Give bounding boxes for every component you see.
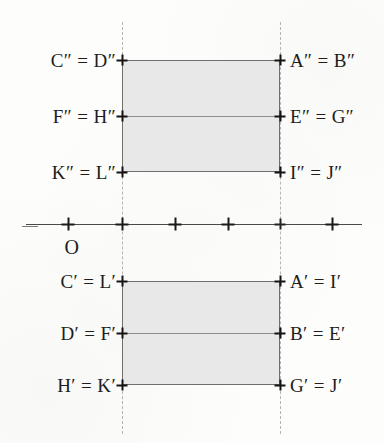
- upper-rectangle: [122, 60, 280, 172]
- upper-rect-bottom-edge: [122, 171, 280, 172]
- lower-rect-bottom-edge: [122, 384, 280, 385]
- vertex-upper-top-right: [275, 55, 286, 66]
- lower-rect-top-edge: [122, 281, 280, 282]
- label-lower-right-top: A′ = I′: [290, 272, 341, 291]
- vertex-lower-top-left: [117, 276, 128, 287]
- ground-axis-line: [26, 224, 362, 225]
- label-lower-left-middle: D′ = F′: [60, 324, 116, 343]
- vertex-lower-bottom-right: [275, 380, 286, 391]
- lower-rectangle: [122, 281, 280, 385]
- projection-figure: C″ = D″ F″ = H″ K″ = L″ A″ = B″ E″ = G″ …: [0, 0, 384, 443]
- vertex-lower-mid-left: [117, 328, 128, 339]
- vertex-upper-top-left: [117, 55, 128, 66]
- upper-rect-top-edge: [122, 60, 280, 61]
- label-upper-left-bottom: K″ = L″: [52, 163, 116, 182]
- axis-tick-2: [116, 218, 129, 231]
- label-lower-left-bottom: H′ = K′: [57, 376, 116, 395]
- lower-rect-midline: [122, 333, 280, 334]
- label-lower-right-bottom: G′ = J′: [290, 376, 342, 395]
- label-lower-right-middle: B′ = E′: [290, 324, 346, 343]
- label-upper-left-middle: F″ = H″: [53, 107, 116, 126]
- origin-label: O: [65, 237, 80, 257]
- axis-tick-5: [275, 219, 286, 230]
- axis-tick-6: [326, 218, 339, 231]
- axis-tick-1: [62, 218, 75, 231]
- vertex-lower-mid-right: [275, 328, 286, 339]
- upper-rect-midline: [122, 116, 280, 117]
- vertex-lower-bottom-left: [117, 380, 128, 391]
- vertex-upper-bottom-left: [117, 167, 128, 178]
- axis-tick-4: [222, 218, 235, 231]
- label-upper-right-bottom: I″ = J″: [290, 163, 343, 182]
- axis-tick-3: [169, 218, 182, 231]
- vertex-upper-mid-left: [117, 111, 128, 122]
- vertex-upper-mid-right: [275, 111, 286, 122]
- vertex-lower-top-right: [275, 276, 286, 287]
- axis-left-dash: [22, 226, 38, 227]
- label-lower-left-top: C′ = L′: [60, 272, 116, 291]
- vertex-upper-bottom-right: [275, 167, 286, 178]
- label-upper-right-top: A″ = B″: [290, 51, 355, 70]
- label-upper-left-top: C″ = D″: [51, 51, 116, 70]
- label-upper-right-middle: E″ = G″: [290, 107, 354, 126]
